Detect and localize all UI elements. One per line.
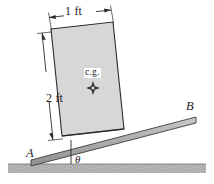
width-dimension-label: 1 ft (65, 5, 82, 17)
block-body (51, 22, 124, 136)
statics-diagram: 1 ft 2 ft c.g. A B θ (0, 0, 214, 184)
center-of-gravity-label: c.g. (84, 68, 101, 78)
angle-theta-label: θ (75, 154, 80, 165)
point-a-label: A (26, 147, 34, 160)
ground-surface (8, 164, 206, 173)
point-b-label: B (186, 100, 194, 113)
height-dimension-label: 2 ft (46, 92, 63, 104)
